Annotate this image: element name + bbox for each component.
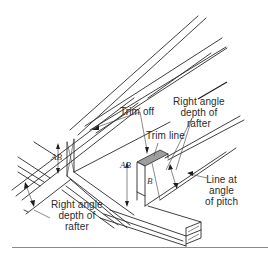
label-line: Right angle <box>51 199 103 210</box>
label-line: rafter <box>173 118 225 129</box>
bottom-plate <box>100 206 201 246</box>
dimension-b: B <box>147 176 153 186</box>
diagram-drawing <box>0 0 268 258</box>
label-line: depth of <box>51 210 103 221</box>
label-right-angle-depth-top: Right angle depth of rafter <box>173 96 225 129</box>
rafter-trim-diagram: Trim off Right angle depth of rafter Tri… <box>0 0 268 258</box>
label-line: depth of <box>173 107 225 118</box>
label-line: Right angle <box>173 96 225 107</box>
label-trim-line: Trim line <box>146 130 185 141</box>
dimension-ab-right: AB <box>120 160 131 170</box>
label-trim-off: Trim off <box>120 106 154 117</box>
dimension-ab-left: AB <box>51 152 62 162</box>
label-right-angle-depth-left: Right angle depth of rafter <box>51 199 103 232</box>
bottom-divider <box>12 247 268 248</box>
label-line: Line at <box>205 174 238 185</box>
label-line: rafter <box>51 221 103 232</box>
label-line-at-angle-of-pitch: Line at angle of pitch <box>205 174 238 207</box>
label-line: of pitch <box>205 196 238 207</box>
label-line: angle <box>205 185 238 196</box>
